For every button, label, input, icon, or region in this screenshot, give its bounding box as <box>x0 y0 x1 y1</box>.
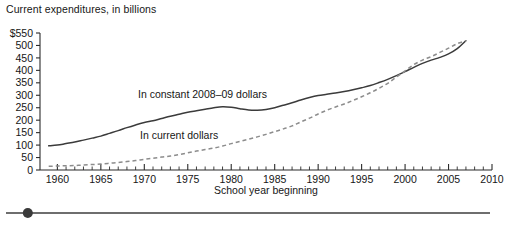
chart-plot-area: $550500450400350300250200150100500 19601… <box>0 0 529 198</box>
y-axis-tick-labels: $550500450400350300250200150100500 <box>10 27 34 176</box>
series-line-current-dollars <box>49 41 466 167</box>
x-tick-label: 1965 <box>89 173 113 185</box>
series-label-constant-dollars: In constant 2008–09 dollars <box>138 88 267 100</box>
x-tick-label: 2005 <box>437 173 461 185</box>
y-tick-label: 500 <box>15 39 33 51</box>
y-tick-label: 250 <box>15 101 33 113</box>
x-tick-label: 2000 <box>393 173 417 185</box>
x-tick-label: 2010 <box>480 173 504 185</box>
x-tick-label: 1970 <box>133 173 157 185</box>
chart-figure: Current expenditures, in billions $55050… <box>0 0 529 225</box>
x-axis-major-ticks <box>57 164 492 170</box>
scrollbar-knob[interactable] <box>23 208 33 218</box>
y-tick-label: 0 <box>27 164 33 176</box>
horizontal-scrollbar[interactable] <box>0 198 529 225</box>
y-tick-label: 50 <box>21 151 33 163</box>
x-axis-title: School year beginning <box>214 184 318 196</box>
y-tick-label: 400 <box>15 64 33 76</box>
y-tick-label: $550 <box>10 27 34 39</box>
x-tick-label: 1975 <box>176 173 200 185</box>
y-tick-label: 200 <box>15 114 33 126</box>
y-tick-label: 350 <box>15 76 33 88</box>
series-label-current-dollars: In current dollars <box>140 129 218 141</box>
y-tick-label: 450 <box>15 52 33 64</box>
x-tick-label: 1995 <box>350 173 374 185</box>
y-tick-label: 300 <box>15 89 33 101</box>
y-tick-label: 100 <box>15 139 33 151</box>
x-tick-label: 1960 <box>46 173 70 185</box>
y-tick-label: 150 <box>15 126 33 138</box>
y-axis-ticks <box>36 33 40 170</box>
